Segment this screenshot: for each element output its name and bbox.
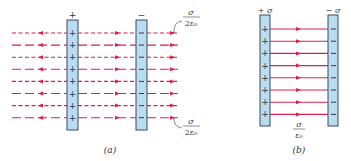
arrowhead-icon: [38, 104, 43, 108]
field-label-a-top-denominator: 2ε₀: [185, 19, 197, 28]
plate-a-negative-sign: −: [138, 10, 146, 20]
positive-charge-icon: +: [261, 97, 269, 107]
positive-charge-icon: +: [69, 52, 77, 62]
arrowhead-icon: [170, 92, 175, 96]
positive-charge-icon: +: [261, 36, 269, 46]
positive-charge-icon: +: [69, 40, 77, 50]
arrowhead-icon: [38, 31, 43, 35]
positive-charge-icon: +: [261, 85, 269, 95]
arrowhead-icon: [115, 67, 120, 71]
plate-a-negative: [136, 20, 147, 130]
plate-b-negative-label: − σ: [326, 6, 341, 15]
positive-charge-icon: +: [69, 113, 77, 123]
arrowhead-icon: [296, 76, 301, 80]
field-label-a-bottom-denominator: 2ε₀: [185, 128, 197, 137]
arrowhead-icon: [296, 64, 301, 68]
arrowhead-icon: [170, 104, 175, 108]
arrowhead-icon: [170, 79, 175, 83]
positive-charge-icon: +: [261, 24, 269, 34]
plate-a-positive-sign: +: [69, 10, 77, 20]
positive-charge-icon: +: [69, 89, 77, 99]
arrowhead-icon: [115, 92, 120, 96]
field-label-a-bottom-numerator: σ: [188, 117, 194, 126]
field-label-b-numerator: σ: [296, 120, 302, 129]
arrowhead-icon: [296, 100, 301, 104]
positive-charge-icon: +: [69, 64, 77, 74]
arrowhead-icon: [296, 27, 301, 31]
arrowhead-icon: [170, 67, 175, 71]
caption-b: (b): [293, 145, 306, 155]
arrowhead-icon: [115, 104, 120, 108]
arrowhead-icon: [115, 79, 120, 83]
arrowhead-icon: [296, 39, 301, 43]
arrowhead-icon: [38, 79, 43, 83]
positive-charge-icon: +: [261, 109, 269, 119]
arrowhead-icon: [115, 55, 120, 59]
arrowhead-icon: [38, 116, 43, 120]
arrowhead-icon: [38, 67, 43, 71]
positive-charge-icon: +: [261, 48, 269, 58]
arrowhead-icon: [38, 55, 43, 59]
arrowhead-icon: [115, 31, 120, 35]
caption-a: (a): [104, 145, 117, 155]
figure-b: [270, 27, 328, 116]
leader-curve-bottom: [174, 118, 182, 128]
arrowhead-icon: [38, 43, 43, 47]
arrowhead-icon: [170, 55, 175, 59]
arrowhead-icon: [170, 43, 175, 47]
positive-charge-icon: +: [69, 101, 77, 111]
parallel-plate-field-diagram: + − σ 2ε₀ σ 2ε₀ (a) + σ − σ σ ε₀ (b) +++…: [0, 0, 351, 161]
field-label-b-denominator: ε₀: [295, 131, 302, 140]
arrowhead-icon: [115, 116, 120, 120]
arrowhead-icon: [115, 43, 120, 47]
plate-b-negative: [328, 15, 338, 126]
positive-charge-icon: +: [261, 61, 269, 71]
arrowhead-icon: [296, 112, 301, 116]
arrowhead-icon: [296, 88, 301, 92]
positive-charge-icon: +: [69, 76, 77, 86]
figure-a: [12, 31, 178, 120]
arrowhead-icon: [296, 51, 301, 55]
arrowhead-icon: [38, 92, 43, 96]
plate-b-positive-label: + σ: [258, 6, 273, 15]
positive-charge-icon: +: [69, 28, 77, 38]
field-label-a-top-numerator: σ: [188, 8, 194, 17]
leader-curve-top: [174, 21, 182, 33]
positive-charge-icon: +: [261, 73, 269, 83]
